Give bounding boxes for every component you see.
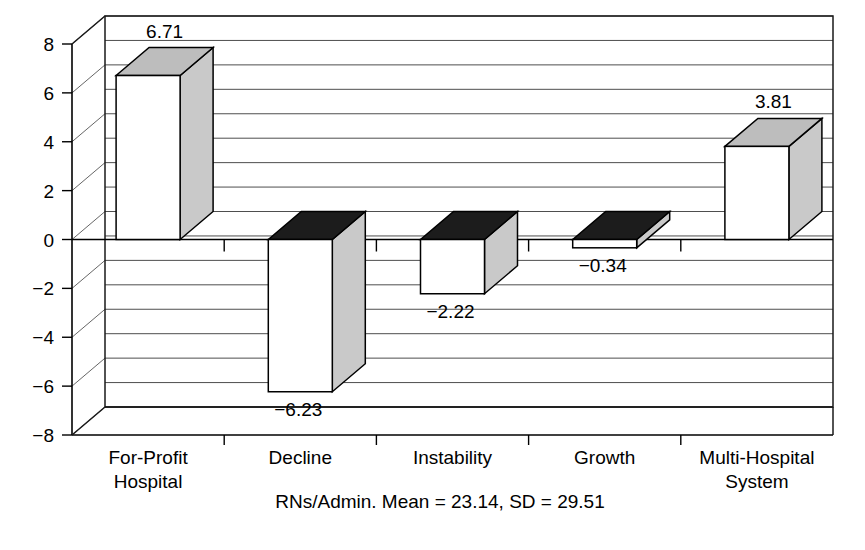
bar-value-label: −6.23 — [274, 399, 322, 420]
category-label: For-Profit — [109, 447, 189, 468]
bar-side-face — [332, 212, 365, 392]
bars-layer — [116, 48, 822, 392]
bar-chart-3d: 86420−2−4−6−8 6.71−6.23−2.22−0.343.81 Fo… — [0, 0, 865, 550]
y-axis-tick-label: 4 — [43, 132, 54, 153]
bar-value-label: −2.22 — [426, 301, 474, 322]
bar-value-label: −0.34 — [579, 255, 628, 276]
bar-4 — [573, 212, 670, 248]
y-axis-tick-label: 0 — [43, 230, 54, 251]
category-label: Growth — [574, 447, 635, 468]
bar-front-face — [573, 240, 637, 248]
bar-value-label: 3.81 — [755, 91, 792, 112]
category-labels: For-ProfitHospitalDeclineInstabilityGrow… — [109, 447, 815, 492]
bar-front-face — [116, 76, 180, 240]
chart-caption: RNs/Admin. Mean = 23.14, SD = 29.51 — [275, 491, 605, 512]
bar-3 — [421, 212, 518, 294]
bar-side-face — [180, 48, 213, 240]
y-axis-tick-label: −2 — [32, 278, 54, 299]
bar-front-face — [421, 240, 485, 294]
bar-front-face — [725, 146, 789, 239]
y-axis-tick-label: −4 — [32, 327, 54, 348]
y-axis-tick-label: 6 — [43, 83, 54, 104]
category-label: Decline — [269, 447, 332, 468]
y-axis-tick-label: −8 — [32, 425, 54, 446]
bar-1 — [116, 48, 213, 240]
bar-2 — [268, 212, 365, 392]
y-axis-tick-label: 2 — [43, 181, 54, 202]
y-axis-tick-label: −6 — [32, 376, 54, 397]
category-label: System — [725, 471, 788, 492]
bar-5 — [725, 118, 822, 239]
y-axis-labels: 86420−2−4−6−8 — [32, 34, 54, 446]
bar-front-face — [268, 240, 332, 392]
bar-value-label: 6.71 — [146, 21, 183, 42]
category-label: Hospital — [114, 471, 183, 492]
chart-container: 86420−2−4−6−8 6.71−6.23−2.22−0.343.81 Fo… — [0, 0, 865, 550]
category-label: Instability — [413, 447, 493, 468]
y-axis-tick-label: 8 — [43, 34, 54, 55]
category-label: Multi-Hospital — [699, 447, 814, 468]
